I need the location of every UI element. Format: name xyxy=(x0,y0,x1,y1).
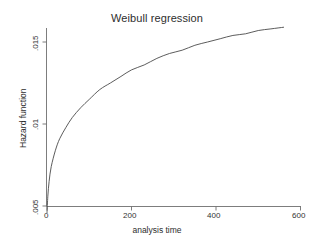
x-axis-title: analysis time xyxy=(0,225,314,235)
weibull-regression-figure: Weibull regression .015 .01 .005 Hazard … xyxy=(0,0,314,247)
y-tick-label-005: .005 xyxy=(32,199,40,215)
x-tick-label-200: 200 xyxy=(123,212,136,220)
y-axis-title: Hazard function xyxy=(19,88,28,148)
x-tick-label-400: 400 xyxy=(207,212,220,220)
y-tick-label-01: .01 xyxy=(32,119,40,130)
x-tick-label-600: 600 xyxy=(292,212,305,220)
x-tick-label-0: 0 xyxy=(44,212,48,220)
plot-area xyxy=(0,0,314,247)
hazard-function-curve xyxy=(47,27,284,212)
y-tick-label-015: .015 xyxy=(32,35,40,51)
